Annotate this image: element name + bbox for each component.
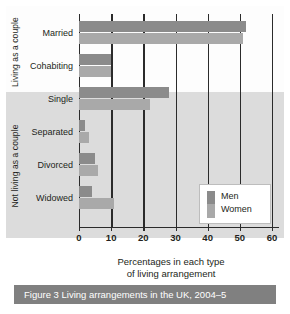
x-tick-50: [240, 227, 241, 231]
bar-row: Cohabiting: [79, 52, 272, 85]
legend-label-women: Women: [221, 204, 252, 214]
bar-separated-men: [79, 120, 85, 131]
bar-widowed-men: [79, 186, 92, 197]
x-tick-label-10: 10: [106, 232, 117, 243]
bar-row: Separated: [79, 118, 272, 151]
bar-cohabiting-men: [79, 54, 111, 65]
legend-swatch-women: [207, 204, 215, 218]
x-tick-label-60: 60: [267, 232, 278, 243]
x-axis-title: Percentages in each type of living arran…: [73, 256, 269, 279]
x-axis-title-line-1: Percentages in each type: [73, 256, 269, 268]
bar-row: Divorced: [79, 151, 272, 184]
chart-legend: Men Women: [199, 184, 271, 224]
group-label-not-living-as-a-couple: Not living as a couple: [6, 94, 24, 236]
gridline-60: [272, 14, 273, 227]
x-tick-40: [208, 227, 209, 231]
x-tick-0: [79, 227, 80, 231]
bar-row: Single: [79, 85, 272, 118]
bar-married-men: [79, 21, 246, 32]
x-tick-60: [272, 227, 273, 231]
bar-single-women: [79, 99, 150, 110]
bar-cohabiting-women: [79, 66, 111, 77]
category-label-married: Married: [42, 28, 73, 38]
chart-plot-panel: Living as a couple Not living as a coupl…: [6, 6, 284, 238]
group-label-living-as-a-couple-text: Living as a couple: [10, 11, 20, 93]
bar-widowed-women: [79, 198, 114, 209]
category-label-divorced: Divorced: [37, 160, 73, 170]
category-label-separated: Separated: [31, 127, 73, 137]
category-label-widowed: Widowed: [36, 193, 73, 203]
bar-single-men: [79, 87, 169, 98]
x-tick-20: [143, 227, 144, 231]
bar-row: Married: [79, 19, 272, 52]
x-tick-label-50: 50: [235, 232, 246, 243]
bar-separated-women: [79, 132, 89, 143]
legend-swatch: [207, 191, 215, 218]
x-tick-label-20: 20: [138, 232, 149, 243]
bar-married-women: [79, 33, 243, 44]
category-label-cohabiting: Cohabiting: [30, 61, 73, 71]
figure-container: Living as a couple Not living as a coupl…: [0, 0, 290, 314]
group-label-living-as-a-couple: Living as a couple: [6, 10, 24, 92]
x-tick-label-40: 40: [202, 232, 213, 243]
bar-divorced-women: [79, 165, 98, 176]
x-tick-label-0: 0: [76, 232, 81, 243]
x-tick-30: [176, 227, 177, 231]
legend-swatch-men: [207, 191, 215, 204]
x-tick-label-30: 30: [170, 232, 181, 243]
x-axis-line: [79, 227, 279, 228]
x-axis-title-line-2: of living arrangement: [73, 268, 269, 280]
figure-caption: Figure 3 Living arrangements in the UK, …: [14, 285, 276, 304]
group-label-not-living-as-a-couple-text: Not living as a couple: [10, 95, 20, 237]
bar-divorced-men: [79, 153, 95, 164]
legend-label-men: Men: [221, 191, 239, 201]
x-tick-10: [111, 227, 112, 231]
category-label-single: Single: [48, 94, 73, 104]
